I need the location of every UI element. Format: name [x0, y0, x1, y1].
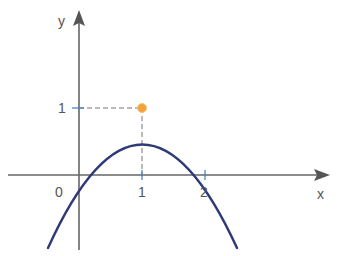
x-tick-label-2: 2 — [200, 184, 208, 200]
origin-label: 0 — [55, 184, 63, 200]
vertex-point — [138, 104, 147, 113]
y-tick-label-1: 1 — [58, 100, 66, 116]
x-axis-label: x — [317, 186, 324, 202]
y-axis-label: y — [58, 13, 65, 29]
chart-canvas: y x 0 1 2 1 — [0, 0, 342, 256]
x-tick-label-1: 1 — [138, 184, 146, 200]
